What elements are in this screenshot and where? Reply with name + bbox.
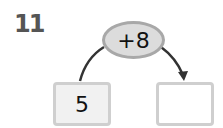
answer-box[interactable]	[156, 82, 214, 126]
operation-oval: +8	[102, 21, 165, 59]
start-value-box: 5	[53, 82, 111, 126]
operation-label: +8	[117, 28, 149, 53]
left-arc	[80, 47, 104, 81]
right-arrow	[161, 47, 183, 75]
arrowhead-icon	[178, 71, 188, 81]
start-value: 5	[75, 92, 89, 117]
